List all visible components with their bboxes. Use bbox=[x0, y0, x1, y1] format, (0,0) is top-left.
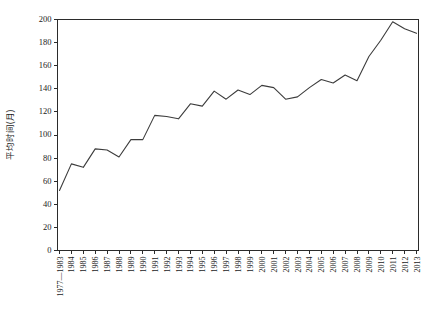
y-tick-label: 20 bbox=[43, 222, 52, 232]
x-axis-ticks bbox=[60, 251, 417, 255]
y-tick-label: 120 bbox=[39, 106, 52, 116]
y-axis-title: 平均时间(月) bbox=[5, 110, 15, 161]
x-axis-tick-labels: 1977—19831984198519861987198819891990199… bbox=[56, 257, 422, 297]
x-tick-label: 1996 bbox=[210, 257, 219, 273]
plot-frame bbox=[58, 20, 419, 251]
x-tick-label: 2007 bbox=[341, 257, 350, 273]
x-tick-label: 1992 bbox=[163, 257, 172, 273]
x-tick-label: 1977—1983 bbox=[56, 257, 65, 297]
x-tick-label: 1998 bbox=[234, 257, 243, 273]
x-tick-label: 1991 bbox=[151, 257, 160, 273]
y-tick-label: 200 bbox=[39, 14, 52, 24]
y-tick-label: 160 bbox=[39, 60, 52, 70]
y-tick-label: 40 bbox=[43, 199, 52, 209]
x-tick-label: 2004 bbox=[305, 257, 314, 273]
x-tick-label: 1988 bbox=[115, 257, 124, 273]
x-tick-label: 2013 bbox=[413, 257, 422, 273]
x-tick-label: 2009 bbox=[365, 257, 374, 273]
x-tick-label: 2011 bbox=[389, 257, 398, 273]
y-tick-label: 100 bbox=[39, 129, 52, 139]
x-tick-label: 1994 bbox=[186, 257, 195, 273]
x-tick-label: 1995 bbox=[198, 257, 207, 273]
chart-figure: 020406080100120140160180200 1977—1983198… bbox=[0, 0, 439, 312]
x-tick-label: 1997 bbox=[222, 257, 231, 273]
y-tick-label: 140 bbox=[39, 83, 52, 93]
x-tick-label: 1999 bbox=[246, 257, 255, 273]
plot-border bbox=[58, 20, 419, 251]
y-tick-label: 0 bbox=[47, 245, 51, 255]
data-line-series bbox=[60, 22, 417, 191]
line-chart: 020406080100120140160180200 1977—1983198… bbox=[0, 0, 439, 312]
x-tick-label: 2012 bbox=[401, 257, 410, 273]
x-tick-label: 2000 bbox=[258, 257, 267, 273]
x-tick-label: 1993 bbox=[175, 257, 184, 273]
y-axis-tick-labels: 020406080100120140160180200 bbox=[39, 14, 52, 255]
x-tick-label: 2002 bbox=[282, 257, 291, 273]
y-axis-title-text: 平均时间(月) bbox=[5, 110, 15, 161]
data-series-layer bbox=[60, 22, 417, 191]
x-tick-label: 1990 bbox=[139, 257, 148, 273]
x-tick-label: 2008 bbox=[353, 257, 362, 273]
y-tick-label: 80 bbox=[43, 153, 52, 163]
x-tick-label: 1989 bbox=[127, 257, 136, 273]
y-tick-label: 180 bbox=[39, 37, 52, 47]
x-tick-label: 2003 bbox=[294, 257, 303, 273]
y-axis-ticks bbox=[54, 20, 58, 251]
x-tick-label: 1984 bbox=[67, 257, 76, 273]
x-tick-label: 2001 bbox=[270, 257, 279, 273]
x-tick-label: 1987 bbox=[103, 257, 112, 273]
x-tick-label: 1985 bbox=[79, 257, 88, 273]
x-tick-label: 2005 bbox=[317, 257, 326, 273]
x-tick-label: 2010 bbox=[377, 257, 386, 273]
y-tick-label: 60 bbox=[43, 176, 52, 186]
x-tick-label: 1986 bbox=[91, 257, 100, 273]
x-tick-label: 2006 bbox=[329, 257, 338, 273]
